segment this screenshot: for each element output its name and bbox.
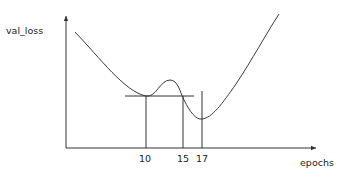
x-axis-label: epochs [300, 157, 334, 168]
val-loss-diagram: val_loss epochs 10 15 17 [0, 0, 348, 178]
tick-label-15: 15 [177, 153, 189, 164]
val-loss-curve [75, 14, 279, 119]
tick-label-17: 17 [196, 153, 208, 164]
tick-label-10: 10 [139, 153, 151, 164]
y-axis-label: val_loss [6, 25, 43, 36]
